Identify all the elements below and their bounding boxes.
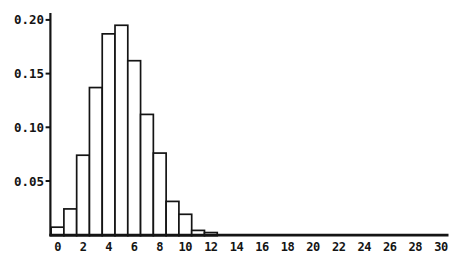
x-tick-label: 0 (54, 240, 61, 254)
x-tick-label: 4 (105, 240, 112, 254)
histogram-bar (89, 88, 102, 236)
histogram-bar (115, 25, 128, 235)
x-tick-label: 20 (306, 240, 320, 254)
x-tick-label: 18 (281, 240, 295, 254)
y-tick-label: 0.10 (14, 120, 44, 135)
x-tick-label: 30 (434, 240, 448, 254)
x-tick-label: 8 (156, 240, 163, 254)
x-tick-label: 22 (332, 240, 346, 254)
x-tick-label: 24 (357, 240, 371, 254)
probability-histogram-chart: 0.050.100.150.20024681012141618202224262… (0, 0, 465, 258)
histogram-bar (64, 209, 77, 236)
histogram-bar (166, 201, 179, 235)
y-tick-label: 0.20 (14, 12, 44, 27)
x-tick-label: 16 (255, 240, 269, 254)
x-tick-label: 26 (383, 240, 397, 254)
x-tick-label: 6 (131, 240, 138, 254)
y-tick-label: 0.15 (14, 66, 44, 81)
x-tick-label: 2 (80, 240, 87, 254)
x-tick-label: 28 (409, 240, 423, 254)
y-tick-label: 0.05 (14, 174, 44, 189)
histogram-bar (102, 34, 115, 236)
x-tick-label: 14 (230, 240, 244, 254)
histogram-bar (179, 214, 192, 235)
histogram-bar (77, 155, 90, 235)
scanned-figure-page: 0.050.100.150.20024681012141618202224262… (0, 0, 465, 258)
x-tick-label: 12 (204, 240, 218, 254)
histogram-bar (153, 153, 166, 236)
x-tick-label: 10 (179, 240, 193, 254)
histogram-bar (141, 114, 154, 235)
histogram-bar (128, 61, 141, 236)
